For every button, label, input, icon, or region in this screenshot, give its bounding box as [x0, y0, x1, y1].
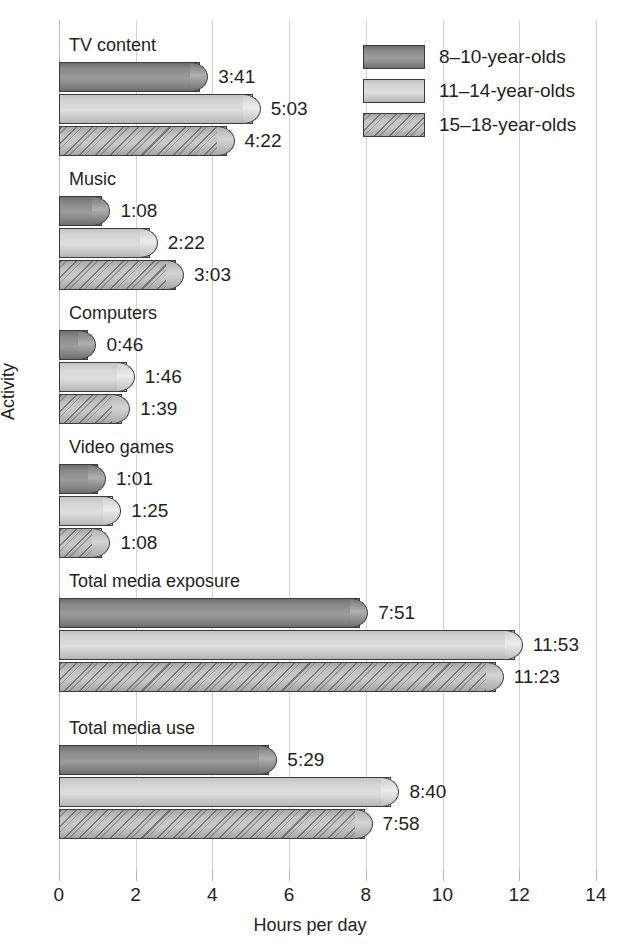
legend-swatch: [363, 113, 425, 137]
x-axis-tick: [366, 870, 367, 881]
group-label: Computers: [69, 304, 157, 322]
bar-value-label: 1:08: [120, 532, 157, 554]
bar-row: 5:29: [59, 745, 596, 775]
x-axis-tick: [443, 870, 444, 881]
bar-row: 7:51: [59, 598, 596, 628]
bar-end-cap: [92, 528, 110, 558]
legend: 8–10-year-olds11–14-year-olds15–18-year-…: [363, 42, 576, 144]
bar-end-cap: [117, 362, 135, 392]
bar-row: 1:08: [59, 196, 596, 226]
bar-chart: Activity 02468101214 TV content3:415:034…: [0, 0, 620, 948]
bar[interactable]: [59, 809, 365, 839]
bar-group: Total media use5:298:407:58: [59, 745, 596, 839]
bar-row: 8:40: [59, 777, 596, 807]
bar-end-cap: [505, 630, 523, 660]
x-axis-title: Hours per day: [0, 915, 620, 936]
bar-row: 1:08: [59, 528, 596, 558]
bar[interactable]: [59, 362, 127, 392]
legend-item[interactable]: 8–10-year-olds: [363, 42, 576, 72]
bar-end-cap: [140, 228, 158, 258]
bar-end-cap: [259, 745, 277, 775]
bar[interactable]: [59, 126, 227, 156]
bar[interactable]: [59, 464, 98, 494]
bar[interactable]: [59, 598, 360, 628]
bar[interactable]: [59, 777, 391, 807]
bar-row: 11:53: [59, 630, 596, 660]
bar-value-label: 3:41: [218, 66, 255, 88]
bar-value-label: 0:46: [106, 334, 143, 356]
bar-row: 1:46: [59, 362, 596, 392]
bar[interactable]: [59, 662, 496, 692]
bar-value-label: 1:25: [131, 500, 168, 522]
x-axis-tick-label: 14: [585, 884, 607, 906]
bar-value-label: 5:29: [287, 749, 324, 771]
bar[interactable]: [59, 496, 113, 526]
bar-value-label: 2:22: [168, 232, 205, 254]
bar[interactable]: [59, 330, 88, 360]
bar-row: 7:58: [59, 809, 596, 839]
x-axis-tick: [212, 870, 213, 881]
bar[interactable]: [59, 228, 150, 258]
bar-end-cap: [92, 196, 110, 226]
group-label: Video games: [69, 438, 174, 456]
y-axis-title: Activity: [0, 363, 19, 420]
bar-end-cap: [166, 260, 184, 290]
bar[interactable]: [59, 394, 122, 424]
x-axis-tick: [136, 870, 137, 881]
bar-end-cap: [88, 464, 106, 494]
bar-value-label: 7:51: [378, 602, 415, 624]
x-axis-tick: [289, 870, 290, 881]
gridline: [596, 20, 597, 870]
bar-end-cap: [217, 126, 235, 156]
bar-row: 11:23: [59, 662, 596, 692]
bar-group: Computers0:461:461:39: [59, 330, 596, 424]
group-label: Music: [69, 170, 116, 188]
bar-end-cap: [190, 62, 208, 92]
x-axis-tick-label: 8: [360, 884, 371, 906]
legend-swatch: [363, 45, 425, 69]
bar-row: 1:39: [59, 394, 596, 424]
bar-value-label: 5:03: [271, 98, 308, 120]
bar-end-cap: [112, 394, 130, 424]
bar[interactable]: [59, 745, 269, 775]
bar[interactable]: [59, 630, 515, 660]
bar-end-cap: [78, 330, 96, 360]
bar[interactable]: [59, 62, 200, 92]
bar-value-label: 3:03: [194, 264, 231, 286]
legend-item[interactable]: 15–18-year-olds: [363, 110, 576, 140]
bar[interactable]: [59, 260, 176, 290]
legend-label: 11–14-year-olds: [439, 80, 575, 102]
x-axis-tick-label: 10: [432, 884, 454, 906]
x-axis-tick: [596, 870, 597, 881]
bar-row: 2:22: [59, 228, 596, 258]
bar-value-label: 1:08: [120, 200, 157, 222]
bar-end-cap: [350, 598, 368, 628]
bar-value-label: 7:58: [383, 813, 420, 835]
x-axis-tick-label: 12: [509, 884, 531, 906]
bar-group: Video games1:011:251:08: [59, 464, 596, 558]
bar[interactable]: [59, 196, 102, 226]
legend-item[interactable]: 11–14-year-olds: [363, 76, 576, 106]
bar-end-cap: [355, 809, 373, 839]
x-axis-tick-label: 0: [54, 884, 65, 906]
bar-row: 0:46: [59, 330, 596, 360]
x-axis-tick: [59, 870, 60, 881]
bar-row: 1:25: [59, 496, 596, 526]
bar-value-label: 11:23: [514, 666, 560, 688]
bar-group: Music1:082:223:03: [59, 196, 596, 290]
bar-value-label: 1:39: [140, 398, 177, 420]
bar-value-label: 8:40: [409, 781, 446, 803]
bar-end-cap: [243, 94, 261, 124]
bar[interactable]: [59, 94, 253, 124]
bar-value-label: 4:22: [245, 130, 282, 152]
bar-group: Total media exposure7:5111:5311:23: [59, 598, 596, 692]
bar-value-label: 1:46: [145, 366, 182, 388]
legend-label: 8–10-year-olds: [439, 46, 566, 68]
bar-value-label: 11:53: [533, 634, 579, 656]
bar-end-cap: [103, 496, 121, 526]
bar-end-cap: [486, 662, 504, 692]
x-axis-tick-label: 4: [207, 884, 218, 906]
bar[interactable]: [59, 528, 102, 558]
group-label: Total media exposure: [69, 572, 240, 590]
group-label: TV content: [69, 36, 156, 54]
